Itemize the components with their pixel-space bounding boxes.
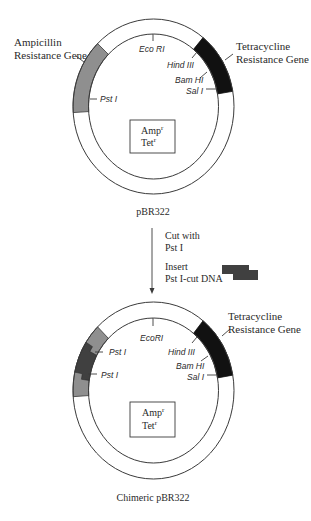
- step-cut-line1: Cut with: [165, 230, 200, 241]
- hind-iii-tick: [192, 52, 197, 58]
- eco-ri-label: Eco RI: [139, 44, 165, 54]
- amp-gene-label-line1: Ampicillin: [14, 36, 62, 48]
- tet-gene-label-line1: Tetracycline: [228, 310, 282, 322]
- hind-iii-label: Hind III: [167, 60, 195, 70]
- top-plasmid: Ampicillin Resistance Gene Tetracycline …: [14, 19, 309, 217]
- step-insert-line1: Insert: [165, 261, 188, 272]
- procedure-step: Cut with Pst I Insert Pst I-cut DNA: [150, 228, 259, 294]
- tet-gene-label-line2: Resistance Gene: [228, 323, 301, 335]
- plasmid-diagram: Ampicillin Resistance Gene Tetracycline …: [0, 0, 311, 521]
- sal-i-label: Sal I: [187, 372, 205, 382]
- pst-i-upper-label: Pst I: [109, 347, 127, 357]
- amp-marker: Ampr: [142, 406, 165, 418]
- hind-iii-label: Hind III: [168, 347, 196, 357]
- tet-gene-label-line2: Resistance Gene: [236, 53, 309, 65]
- tet-marker: Tetr: [141, 136, 157, 148]
- amp-marker: Ampr: [141, 124, 164, 136]
- pst-i-cut-dna-fragment: [222, 265, 258, 280]
- sal-i-label: Sal I: [186, 86, 204, 96]
- pst-i-label: Pst I: [100, 94, 118, 104]
- step-insert-line2: Pst I-cut DNA: [165, 273, 224, 284]
- step-cut-line2: Pst I: [165, 242, 183, 253]
- tet-gene-label-line1: Tetracycline: [236, 40, 290, 52]
- tet-marker: Tetr: [142, 419, 158, 431]
- plasmid-name: pBR322: [136, 206, 169, 217]
- chimeric-plasmid: Tetracycline Resistance Gene EcoRI Pst I…: [73, 302, 301, 503]
- plasmid-inner-ring: [89, 34, 219, 179]
- bam-hi-label: Bam HI: [175, 75, 204, 85]
- eco-ri-label: EcoRI: [140, 333, 164, 343]
- pst-i-lower-label: Pst I: [101, 370, 119, 380]
- plasmid-name: Chimeric pBR322: [116, 492, 189, 503]
- tet-label-leader: [225, 54, 233, 60]
- bam-hi-label: Bam HI: [176, 361, 205, 371]
- process-arrow-head: [150, 288, 155, 294]
- hind-iii-tick: [192, 337, 197, 343]
- amp-gene-label-line2: Resistance Gene: [14, 49, 87, 61]
